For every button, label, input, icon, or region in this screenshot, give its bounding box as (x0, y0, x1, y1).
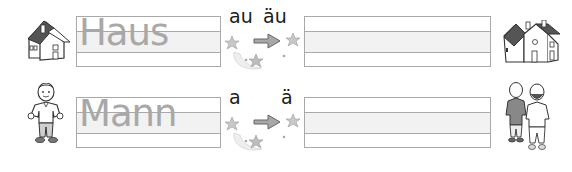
men-icon (502, 81, 554, 153)
model-word: Mann (79, 95, 177, 132)
exercise-row-2: Mann a ä (0, 81, 572, 161)
house-icon (26, 18, 72, 62)
exercise-row-1: Haus au äu (0, 0, 572, 80)
vowel-from: a (229, 88, 241, 107)
vowel-to: äu (263, 7, 287, 26)
magic-arrow-icon (222, 30, 304, 72)
man-icon (26, 83, 66, 145)
houses-icon (502, 20, 562, 66)
writing-box[interactable] (304, 16, 491, 67)
vowel-from: au (229, 7, 253, 26)
writing-box[interactable] (304, 97, 491, 148)
model-word: Haus (79, 14, 168, 51)
vowel-to: ä (281, 88, 293, 107)
magic-arrow-icon (222, 111, 304, 153)
